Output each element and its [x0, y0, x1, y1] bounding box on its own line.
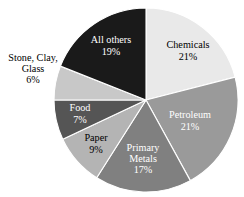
pie-label-name: Chemicals — [166, 40, 209, 51]
pie-label-name: Paper — [84, 133, 108, 144]
pie-chart-figure: Chemicals21%Petroleum21%PrimaryMetals17%… — [0, 0, 244, 197]
pie-label-percent: 21% — [179, 51, 198, 62]
pie-label-percent: 9% — [89, 144, 103, 155]
pie-label-name: Stone, Clay, — [8, 52, 57, 63]
pie-label-name: Petroleum — [169, 110, 211, 121]
pie-label-percent: 7% — [73, 114, 87, 125]
pie-label-name: Glass — [22, 63, 45, 74]
pie-label-percent: 19% — [102, 46, 121, 57]
pie-label-name: Metals — [129, 153, 157, 164]
pie-label-name: Primary — [127, 142, 161, 153]
pie-label-percent: 21% — [181, 121, 200, 132]
pie-label-stone-clay-glass: Stone, Clay,Glass6% — [8, 52, 57, 86]
pie-label-percent: 17% — [134, 165, 153, 176]
pie-label-name: Food — [70, 103, 91, 114]
pie-chart-canvas: Chemicals21%Petroleum21%PrimaryMetals17%… — [0, 0, 244, 197]
pie-label-name: All others — [91, 35, 131, 46]
pie-label-percent: 6% — [26, 74, 40, 85]
